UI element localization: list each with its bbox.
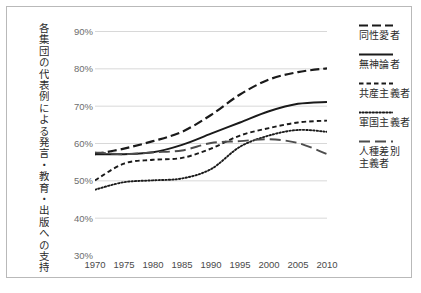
y-axis-tick-labels: 30%40%50%60%70%80%90% xyxy=(57,31,93,255)
chart-legend: 同性愛者無神論者共産主義者軍国主義者人種差別 主義者 xyxy=(359,23,412,180)
legend-label: 軍国主義者 xyxy=(359,117,412,129)
y-axis-tick-label: 70% xyxy=(59,100,93,111)
legend-item[interactable]: 軍国主義者 xyxy=(359,110,412,129)
legend-label: 共産主義者 xyxy=(359,88,412,100)
x-axis-tick-label: 2010 xyxy=(307,259,347,270)
legend-swatch-icon xyxy=(359,81,393,86)
legend-swatch-icon xyxy=(359,110,393,115)
legend-item[interactable]: 共産主義者 xyxy=(359,81,412,100)
legend-swatch-icon xyxy=(359,23,393,28)
y-axis-tick-label: 40% xyxy=(59,212,93,223)
legend-label: 同性愛者 xyxy=(359,30,412,42)
legend-swatch-icon xyxy=(359,139,393,144)
legend-item[interactable]: 同性愛者 xyxy=(359,23,412,42)
y-axis-title: 各集団の代表例による発言・教育・出版への支持 xyxy=(27,23,49,275)
y-axis-tick-label: 80% xyxy=(59,63,93,74)
plot-area xyxy=(95,31,327,255)
series-line-4 xyxy=(95,139,327,154)
legend-swatch-icon xyxy=(359,52,393,57)
x-axis-tick-labels: 197019751980198519901995200020052010 xyxy=(95,259,327,273)
legend-label: 人種差別 主義者 xyxy=(359,146,412,170)
series-line-1 xyxy=(95,102,327,154)
chart-frame: 各集団の代表例による発言・教育・出版への支持 30%40%50%60%70%80… xyxy=(6,6,412,278)
series-line-2 xyxy=(95,121,327,181)
y-axis-tick-label: 60% xyxy=(59,138,93,149)
y-axis-tick-label: 50% xyxy=(59,175,93,186)
legend-item[interactable]: 人種差別 主義者 xyxy=(359,139,412,170)
legend-label: 無神論者 xyxy=(359,59,412,71)
chart-svg xyxy=(95,31,327,255)
y-axis-tick-label: 90% xyxy=(59,26,93,37)
legend-item[interactable]: 無神論者 xyxy=(359,52,412,71)
